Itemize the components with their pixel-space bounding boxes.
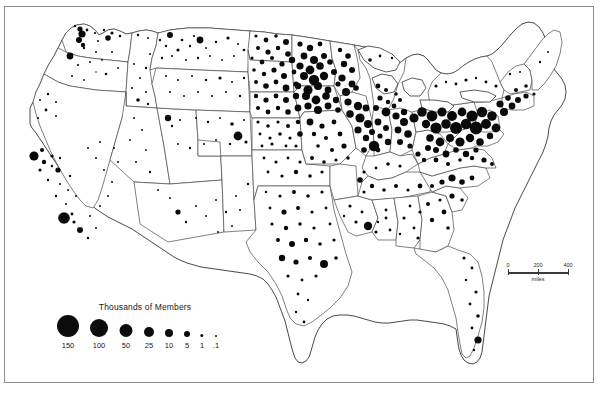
legend-label-150: 150 [62,341,75,350]
legend-label-1: 1 [200,341,204,350]
legend-circle-10 [165,329,173,337]
legend-circle-5 [184,331,190,337]
scale-unit-label: miles [532,276,545,282]
scale-tick-0 [508,269,509,275]
legend-label-10: 10 [165,341,173,350]
scale-tick-200 [538,269,539,275]
legend-circle-100 [90,319,108,337]
legend-label-25: 25 [145,341,153,350]
legend-label-point1: .1 [213,341,219,350]
legend-circle-50 [120,324,133,337]
scale-bar: 0 200 400 miles [503,262,581,286]
scale-tick-400 [568,269,569,275]
legend: Thousands of Members 150 100 50 25 10 [48,302,228,364]
legend-label-50: 50 [122,341,130,350]
scale-label-200: 200 [533,262,542,268]
legend-circle-1 [200,334,203,337]
legend-circle-25 [144,327,154,337]
scale-label-400: 400 [563,262,572,268]
legend-swatches: 150 100 50 25 10 5 [48,315,228,349]
legend-circle-point1 [215,335,217,337]
scale-label-0: 0 [506,262,509,268]
legend-circle-150 [57,315,79,337]
legend-label-100: 100 [93,341,106,350]
legend-title: Thousands of Members [65,302,225,312]
map-figure: Thousands of Members 150 100 50 25 10 [0,0,601,402]
legend-label-5: 5 [185,341,189,350]
